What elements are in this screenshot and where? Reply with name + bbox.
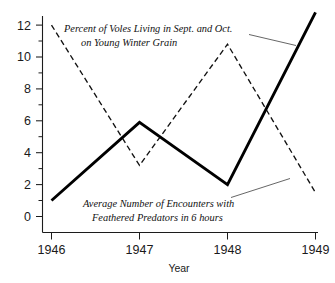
y-tick-label-10: 10 <box>17 50 31 64</box>
annotation-voles-line2: on Young Winter Grain <box>81 37 177 48</box>
y-tick-label-2: 2 <box>24 178 31 192</box>
y-tick-label-6: 6 <box>24 114 31 128</box>
chart-figure: 12 10 8 6 4 2 0 1946 1947 1948 1949 Year <box>0 0 335 283</box>
annotation-voles-line1: Percent of Voles Living in Sept. and Oct… <box>63 23 232 34</box>
x-tick-label-1947: 1947 <box>126 243 154 257</box>
x-axis-ticks <box>52 233 316 240</box>
x-tick-label-1948: 1948 <box>214 243 242 257</box>
annotation-encounters-line2: Feathered Predators in 6 hours <box>91 212 223 223</box>
y-axis-tick-labels: 12 10 8 6 4 2 0 <box>17 19 31 224</box>
y-tick-label-8: 8 <box>24 82 31 96</box>
x-tick-label-1946: 1946 <box>38 243 66 257</box>
annotation-voles-percent: Percent of Voles Living in Sept. and Oct… <box>63 23 232 48</box>
annotation-encounters-line1: Average Number of Encounters with <box>82 198 234 209</box>
y-tick-label-4: 4 <box>24 146 31 160</box>
y-tick-label-0: 0 <box>24 210 31 224</box>
series-voles-percent-line <box>52 25 316 193</box>
y-tick-label-12: 12 <box>17 19 31 33</box>
x-tick-label-1949: 1949 <box>302 243 330 257</box>
annotation-predator-encounters: Average Number of Encounters with Feathe… <box>82 198 234 223</box>
leader-line-voles <box>249 35 296 46</box>
y-axis-major-ticks <box>36 25 43 216</box>
x-axis-tick-labels: 1946 1947 1948 1949 <box>38 243 330 257</box>
x-axis-title: Year <box>168 262 190 274</box>
leader-line-encounters <box>231 179 290 198</box>
line-chart: 12 10 8 6 4 2 0 1946 1947 1948 1949 Year <box>0 0 335 283</box>
